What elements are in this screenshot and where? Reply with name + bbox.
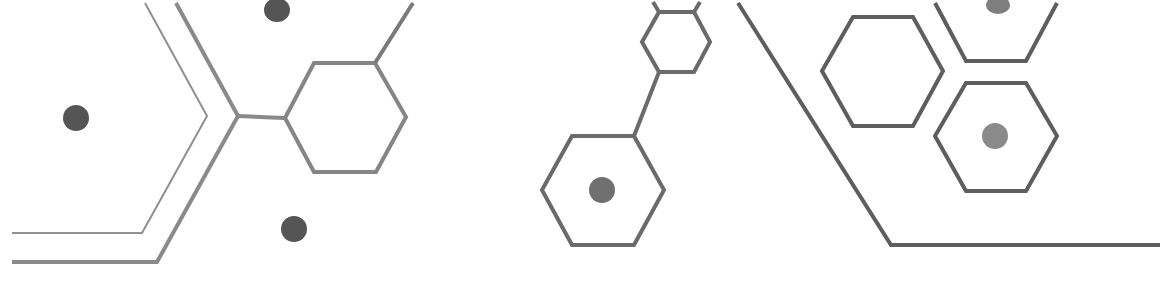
decorative-hexagon-graphic [0,0,1162,294]
diagonal-baseline-right [738,3,1160,245]
hexagon-small-top-center [634,2,710,136]
hexagon-connected-left [285,3,413,172]
hexagon-large-center-with-dot [542,136,664,245]
chevron-lines-left [12,3,284,262]
dots-left [63,0,307,242]
hexagon-pattern-svg [0,0,1162,294]
hexagon-cluster-right [822,0,1057,191]
